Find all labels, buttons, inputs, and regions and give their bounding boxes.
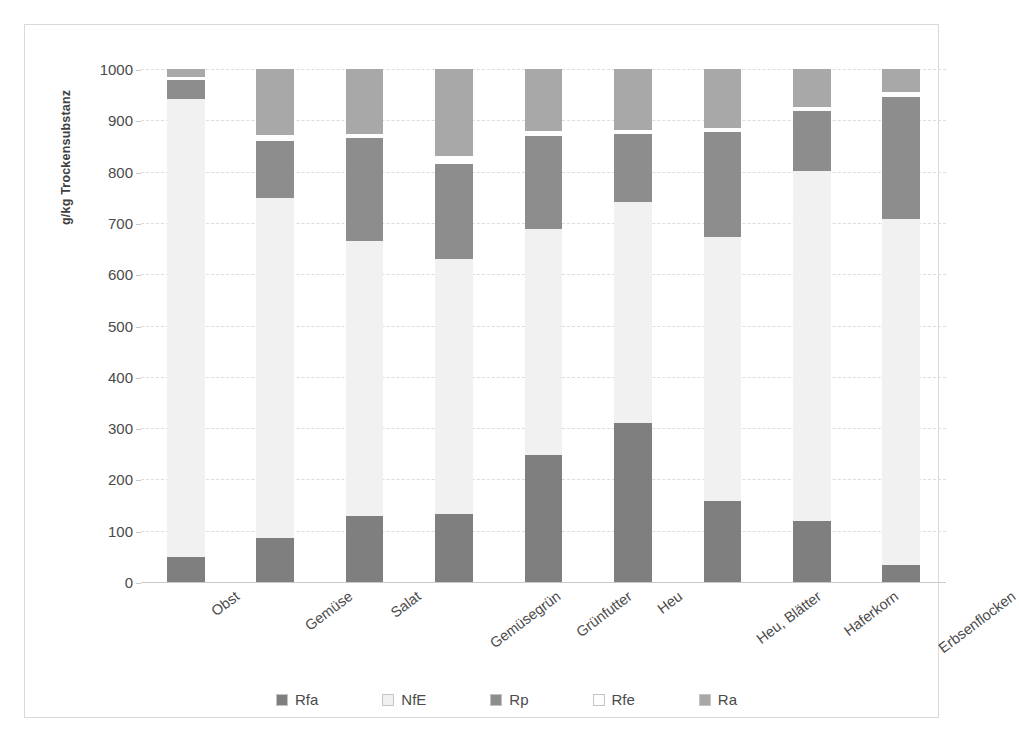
bar-segment-rfa[interactable] — [167, 557, 205, 582]
bar-segment-rfa[interactable] — [882, 565, 920, 582]
bar-group[interactable] — [256, 69, 294, 582]
x-tick-label: Haferkorn — [841, 588, 901, 639]
x-tick-label: Heu, Blätter — [754, 588, 825, 647]
bar-segment-ra[interactable] — [167, 69, 205, 77]
legend-item[interactable]: NfE — [382, 691, 426, 708]
legend-label: Ra — [718, 691, 737, 708]
bar-segment-nfe[interactable] — [525, 229, 563, 455]
y-tick-label-900: 900 — [71, 112, 133, 129]
legend-label: Rp — [509, 691, 528, 708]
bar-segment-nfe[interactable] — [346, 241, 384, 516]
legend-swatch-icon — [490, 694, 502, 706]
y-tick-mark-100 — [136, 532, 141, 533]
bar-segment-rp[interactable] — [525, 136, 563, 229]
y-tick-label-200: 200 — [71, 471, 133, 488]
bar-segment-rp[interactable] — [167, 80, 205, 99]
bar-segment-rfa[interactable] — [525, 455, 563, 582]
bar-segment-ra[interactable] — [435, 69, 473, 156]
bar-segment-nfe[interactable] — [256, 198, 294, 538]
y-tick-label-0: 0 — [71, 574, 133, 591]
bar-segment-rfe[interactable] — [614, 130, 652, 134]
legend-item[interactable]: Rfa — [276, 691, 318, 708]
bar-group[interactable] — [614, 69, 652, 582]
bar-segment-rp[interactable] — [793, 111, 831, 171]
bar-segment-rfa[interactable] — [793, 521, 831, 582]
y-tick-mark-500 — [136, 327, 141, 328]
stacked-bar[interactable] — [256, 69, 294, 582]
x-tick-label: Grünfutter — [573, 588, 635, 640]
bar-segment-rp[interactable] — [435, 164, 473, 259]
x-tick-label: Salat — [387, 588, 423, 621]
bar-segment-ra[interactable] — [256, 69, 294, 135]
stacked-bar[interactable] — [435, 69, 473, 582]
x-axis-tick-labels: ObstGemüseSalatGemüsegrünGrünfutterHeuHe… — [141, 582, 946, 682]
legend-swatch-icon — [699, 694, 711, 706]
x-tick-label: Obst — [208, 588, 242, 619]
bar-segment-rfe[interactable] — [704, 128, 742, 132]
y-tick-mark-700 — [136, 224, 141, 225]
stacked-bar[interactable] — [167, 69, 205, 582]
bar-segment-rp[interactable] — [614, 134, 652, 202]
bar-group[interactable] — [346, 69, 384, 582]
bar-segment-rp[interactable] — [346, 138, 384, 241]
bar-segment-rfe[interactable] — [167, 77, 205, 81]
bar-segment-nfe[interactable] — [704, 237, 742, 501]
stacked-bar[interactable] — [704, 69, 742, 582]
bar-segment-rfe[interactable] — [525, 131, 563, 137]
legend-swatch-icon — [276, 694, 288, 706]
bar-segment-ra[interactable] — [704, 69, 742, 128]
bar-segment-rfe[interactable] — [435, 156, 473, 164]
legend-item[interactable]: Ra — [699, 691, 737, 708]
chart-legend: RfaNfERpRfeRa — [49, 691, 964, 708]
stacked-bar[interactable] — [346, 69, 384, 582]
bar-group[interactable] — [704, 69, 742, 582]
bar-segment-ra[interactable] — [346, 69, 384, 134]
x-tick-label: Heu — [654, 588, 685, 617]
bar-segment-rfe[interactable] — [256, 135, 294, 141]
y-tick-label-300: 300 — [71, 420, 133, 437]
y-tick-label-1000: 1000 — [71, 61, 133, 78]
bar-segment-ra[interactable] — [793, 69, 831, 107]
legend-label: Rfa — [295, 691, 318, 708]
y-tick-label-600: 600 — [71, 266, 133, 283]
bar-segment-ra[interactable] — [882, 69, 920, 92]
bar-segment-nfe[interactable] — [793, 171, 831, 521]
stacked-bar[interactable] — [793, 69, 831, 582]
bar-segment-rfa[interactable] — [256, 538, 294, 582]
bar-segment-rfa[interactable] — [435, 514, 473, 582]
y-tick-label-800: 800 — [71, 163, 133, 180]
y-tick-mark-400 — [136, 378, 141, 379]
legend-item[interactable]: Rfe — [593, 691, 635, 708]
bar-segment-rfa[interactable] — [614, 423, 652, 582]
bar-segment-rp[interactable] — [256, 141, 294, 198]
x-tick-label: Gemüse — [302, 588, 355, 634]
bar-segment-nfe[interactable] — [614, 202, 652, 423]
y-tick-label-100: 100 — [71, 522, 133, 539]
bar-segment-rp[interactable] — [882, 97, 920, 219]
legend-swatch-icon — [382, 694, 394, 706]
bar-group[interactable] — [525, 69, 563, 582]
bar-segment-ra[interactable] — [525, 69, 563, 131]
bar-segment-nfe[interactable] — [435, 259, 473, 514]
stacked-bar[interactable] — [525, 69, 563, 582]
bar-group[interactable] — [882, 69, 920, 582]
bar-segment-ra[interactable] — [614, 69, 652, 130]
bar-segment-rfe[interactable] — [793, 107, 831, 111]
stacked-bar[interactable] — [882, 69, 920, 582]
bar-segment-rfa[interactable] — [704, 501, 742, 582]
stacked-bar[interactable] — [614, 69, 652, 582]
y-tick-mark-200 — [136, 480, 141, 481]
legend-swatch-icon — [593, 694, 605, 706]
bar-segment-nfe[interactable] — [882, 219, 920, 565]
bar-group[interactable] — [435, 69, 473, 582]
bar-group[interactable] — [167, 69, 205, 582]
bar-segment-rfe[interactable] — [346, 134, 384, 139]
y-tick-mark-300 — [136, 429, 141, 430]
bar-segment-rp[interactable] — [704, 132, 742, 237]
bar-segment-rfe[interactable] — [882, 92, 920, 97]
bar-segment-rfa[interactable] — [346, 516, 384, 582]
legend-label: NfE — [401, 691, 426, 708]
bar-group[interactable] — [793, 69, 831, 582]
legend-item[interactable]: Rp — [490, 691, 528, 708]
bar-segment-nfe[interactable] — [167, 99, 205, 557]
